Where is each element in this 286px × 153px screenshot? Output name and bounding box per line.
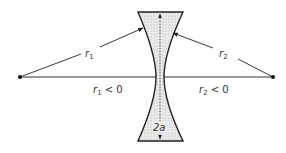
r2-label: r2 [219, 48, 228, 61]
center-of-curvature-right [271, 75, 275, 79]
aperture-label: 2a [153, 122, 166, 133]
r2-radius-arrow-2 [173, 33, 213, 48]
r1-label: r1 [85, 48, 94, 61]
r1-radius-arrow-2 [100, 28, 143, 47]
center-of-curvature-left [18, 75, 22, 79]
r1-condition: r1 < 0 [93, 84, 123, 97]
r1-radius-arrow [20, 54, 81, 77]
lens-diagram: r1 r2 r1 < 0 r2 < 0 2a [0, 0, 286, 153]
r2-condition: r2 < 0 [199, 84, 229, 97]
r2-radius-arrow [238, 59, 273, 77]
